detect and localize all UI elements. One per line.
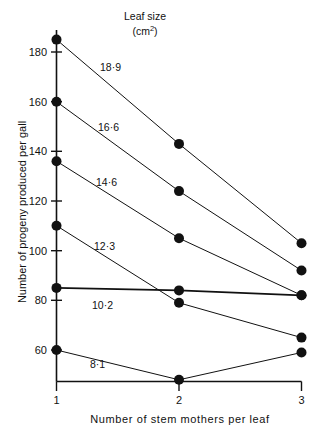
data-point (52, 283, 62, 293)
data-point (174, 186, 184, 196)
series-label-12-3: 12·3 (94, 240, 115, 252)
x-axis-title: Number of stem mothers per leaf (90, 413, 270, 425)
data-point (297, 290, 307, 300)
x-tick-labels: 1 2 3 (53, 394, 304, 406)
data-point (52, 221, 62, 231)
series-label-18-9: 18·9 (100, 61, 121, 73)
legend-units-close: ) (154, 25, 158, 37)
data-point (174, 233, 184, 243)
y-tick-label-60: 60 (35, 344, 47, 356)
x-tick-label-1: 1 (53, 394, 59, 406)
series-label-14-6: 14·6 (96, 176, 117, 188)
x-tick-label-2: 2 (176, 394, 182, 406)
y-axis-title: Number of progeny produced per gall (16, 121, 28, 303)
data-point (297, 348, 307, 358)
line-chart-svg: 180 160 140 120 100 80 60 1 2 3 Number o… (0, 0, 336, 431)
series-14-6: 14·6 (52, 156, 307, 300)
legend-units-open: (cm (132, 25, 150, 37)
data-point (174, 375, 184, 385)
data-point (174, 139, 184, 149)
data-point (297, 333, 307, 343)
y-tick-label-100: 100 (29, 245, 47, 257)
data-point (174, 298, 184, 308)
y-tick-label-180: 180 (29, 46, 47, 58)
data-point (52, 345, 62, 355)
series-14-6-line (57, 161, 302, 295)
series-label-8-1: 8·1 (90, 358, 105, 370)
y-tick-labels: 180 160 140 120 100 80 60 (29, 46, 47, 356)
y-tick-label-80: 80 (35, 294, 47, 306)
chart-figure: 180 160 140 120 100 80 60 1 2 3 Number o… (0, 0, 336, 431)
data-point (297, 266, 307, 276)
series-16-6: 16·6 (52, 97, 307, 276)
y-tick-label-160: 160 (29, 96, 47, 108)
data-point (52, 35, 62, 45)
legend-units: (cm2) (132, 24, 157, 37)
data-point (52, 156, 62, 166)
series-label-10-2: 10·2 (92, 299, 113, 311)
series-8-1: 8·1 (52, 345, 307, 385)
y-tick-label-140: 140 (29, 145, 47, 157)
series-label-16-6: 16·6 (98, 121, 119, 133)
series-18-9: 18·9 (52, 35, 307, 249)
data-point (174, 285, 184, 295)
data-point (297, 238, 307, 248)
data-point (52, 97, 62, 107)
axes (57, 30, 302, 382)
legend-title: Leaf size (124, 10, 166, 22)
legend-title-group: Leaf size (cm2) (124, 10, 166, 37)
y-tick-label-120: 120 (29, 195, 47, 207)
x-tick-label-3: 3 (298, 394, 304, 406)
